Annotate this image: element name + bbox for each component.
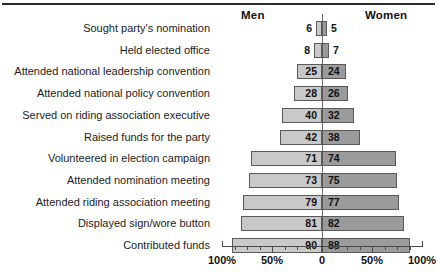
bar-value-men: 28 bbox=[299, 86, 317, 101]
axis-tick bbox=[385, 246, 386, 250]
bar-value-men: 25 bbox=[302, 64, 317, 79]
bar-value-women: 82 bbox=[328, 216, 340, 231]
category-label: Displayed sign/wore button bbox=[0, 216, 210, 231]
bar-value-men: 79 bbox=[248, 195, 317, 210]
axis-tick bbox=[422, 241, 423, 247]
category-label: Attended national leadership convention bbox=[0, 64, 210, 79]
axis-tick bbox=[397, 246, 398, 250]
category-label: Volunteered in election campaign bbox=[0, 151, 210, 166]
bar-value-women: 77 bbox=[328, 195, 340, 210]
bar-value-women: 24 bbox=[328, 64, 340, 79]
table-row: Attended riding association meeting7977 bbox=[0, 195, 437, 217]
axis-tick bbox=[410, 246, 411, 250]
table-row: Sought party's nomination65 bbox=[0, 21, 437, 43]
axis-tick bbox=[285, 246, 286, 250]
table-row: Attended national leadership convention2… bbox=[0, 64, 437, 86]
axis-tick bbox=[247, 246, 248, 250]
category-label: Served on riding association executive bbox=[0, 108, 210, 123]
bar-value-men: 40 bbox=[287, 108, 317, 123]
axis-tick bbox=[360, 246, 361, 250]
axis-tick bbox=[372, 246, 373, 252]
category-label: Held elected office bbox=[0, 43, 210, 58]
table-row: Attended nomination meeting7375 bbox=[0, 173, 437, 195]
bar-value-women: 32 bbox=[328, 108, 340, 123]
bar-value-women: 5 bbox=[331, 21, 337, 36]
category-label: Contributed funds bbox=[0, 238, 210, 253]
bar-value-women: 7 bbox=[333, 43, 339, 58]
table-row: Volunteered in election campaign7174 bbox=[0, 151, 437, 173]
bar-value-men: 6 bbox=[306, 21, 312, 36]
category-label: Raised funds for the party bbox=[0, 130, 210, 145]
axis-tick-label: 100% bbox=[408, 254, 436, 266]
axis-tick bbox=[235, 246, 236, 250]
bar-value-women: 75 bbox=[328, 173, 340, 188]
bar-men bbox=[314, 43, 322, 58]
category-label: Attended national policy convention bbox=[0, 86, 210, 101]
bar-value-men: 42 bbox=[285, 130, 317, 145]
axis-tick bbox=[272, 246, 273, 252]
table-row: Attended national policy convention2826 bbox=[0, 86, 437, 108]
bar-value-women: 26 bbox=[328, 86, 340, 101]
axis-tick bbox=[322, 246, 323, 252]
bar-value-women: 74 bbox=[328, 151, 340, 166]
category-label: Attended riding association meeting bbox=[0, 195, 210, 210]
plot-area: Sought party's nomination65Held elected … bbox=[0, 0, 437, 274]
bar-value-men: 71 bbox=[256, 151, 317, 166]
axis-tick bbox=[310, 246, 311, 250]
axis-tick bbox=[260, 246, 261, 250]
axis-tick-label: 50% bbox=[261, 254, 283, 266]
bar-value-men: 8 bbox=[304, 43, 310, 58]
axis-tick-label: 50% bbox=[361, 254, 383, 266]
table-row: Displayed sign/wore button8182 bbox=[0, 216, 437, 238]
axis-tick bbox=[347, 246, 348, 250]
axis-tick-label: 0 bbox=[319, 254, 325, 266]
axis-tick bbox=[335, 246, 336, 250]
category-label: Attended nomination meeting bbox=[0, 173, 210, 188]
axis-tick bbox=[222, 241, 223, 247]
table-row: Held elected office87 bbox=[0, 43, 437, 65]
bar-value-men: 73 bbox=[254, 173, 317, 188]
table-row: Served on riding association executive40… bbox=[0, 108, 437, 130]
bar-value-women: 38 bbox=[328, 130, 340, 145]
table-row: Raised funds for the party4238 bbox=[0, 130, 437, 152]
axis-tick-label: 100% bbox=[208, 254, 236, 266]
bar-women bbox=[322, 43, 329, 58]
bar-value-men: 81 bbox=[246, 216, 317, 231]
axis-tick bbox=[297, 246, 298, 250]
bar-women bbox=[322, 21, 327, 36]
diverging-bar-chart: Men Women Sought party's nomination65Hel… bbox=[0, 0, 437, 274]
category-label: Sought party's nomination bbox=[0, 21, 210, 36]
